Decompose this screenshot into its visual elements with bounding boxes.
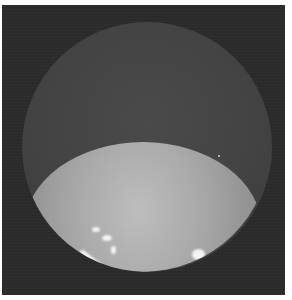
dome-clip (22, 22, 270, 272)
specular-highlight (111, 246, 116, 254)
dome-surface (24, 142, 262, 272)
circular-field-of-view (22, 22, 272, 272)
image-frame (2, 5, 285, 295)
specular-highlight (192, 249, 205, 260)
specular-highlight (92, 227, 100, 232)
specular-streak (79, 249, 109, 272)
specular-highlight (102, 235, 112, 241)
